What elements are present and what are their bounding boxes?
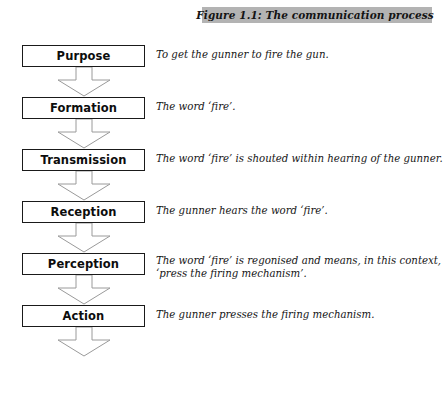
stage-box-1[interactable]: Formation [22, 97, 145, 119]
stage-description: The gunner presses the firing mechanism. [156, 308, 430, 321]
stage-description: To get the gunner to fire the gun. [156, 48, 430, 61]
stage-description-line: The word ‘fire’ is regonised and means, … [156, 254, 430, 267]
stage-label: Action [63, 309, 105, 323]
figure-caption-bar: Figure 1.1: The communication process [202, 7, 432, 23]
arrow-down-icon [57, 67, 111, 97]
arrow-down-icon [57, 171, 111, 201]
stage-label: Transmission [41, 153, 127, 167]
stage-description: The word ‘fire’ is regonised and means, … [156, 254, 430, 280]
stage-description-line: To get the gunner to fire the gun. [156, 48, 430, 61]
stage-description: The word ‘fire’. [156, 100, 430, 113]
stage-box-5[interactable]: Action [22, 305, 145, 327]
stage-description: The gunner hears the word ‘fire’. [156, 204, 430, 217]
stage-description-line: The word ‘fire’ is shouted within hearin… [156, 152, 430, 165]
stage-box-3[interactable]: Reception [22, 201, 145, 223]
stage-description: The word ‘fire’ is shouted within hearin… [156, 152, 430, 165]
arrow-down-icon [57, 223, 111, 253]
process-flow: PurposeTo get the gunner to fire the gun… [0, 45, 432, 357]
stage-box-0[interactable]: Purpose [22, 45, 145, 67]
stage-box-2[interactable]: Transmission [22, 149, 145, 171]
stage-label: Formation [50, 101, 117, 115]
process-stage-row: FormationThe word ‘fire’. [0, 97, 432, 149]
arrow-down-icon [57, 275, 111, 305]
stage-description-line: The word ‘fire’. [156, 100, 430, 113]
process-stage-row: ReceptionThe gunner hears the word ‘fire… [0, 201, 432, 253]
figure-caption-text: Figure 1.1: The communication process [196, 9, 438, 21]
stage-label: Reception [51, 205, 117, 219]
arrow-down-icon [57, 327, 111, 357]
process-stage-row: PerceptionThe word ‘fire’ is regonised a… [0, 253, 432, 305]
stage-description-line: ‘press the firing mechanism’. [156, 267, 430, 280]
stage-label: Purpose [57, 49, 111, 63]
stage-description-line: The gunner presses the firing mechanism. [156, 308, 430, 321]
stage-description-line: The gunner hears the word ‘fire’. [156, 204, 430, 217]
process-stage-row: PurposeTo get the gunner to fire the gun… [0, 45, 432, 97]
process-stage-row: ActionThe gunner presses the firing mech… [0, 305, 432, 357]
arrow-down-icon [57, 119, 111, 149]
process-stage-row: TransmissionThe word ‘fire’ is shouted w… [0, 149, 432, 201]
stage-box-4[interactable]: Perception [22, 253, 145, 275]
stage-label: Perception [48, 257, 119, 271]
